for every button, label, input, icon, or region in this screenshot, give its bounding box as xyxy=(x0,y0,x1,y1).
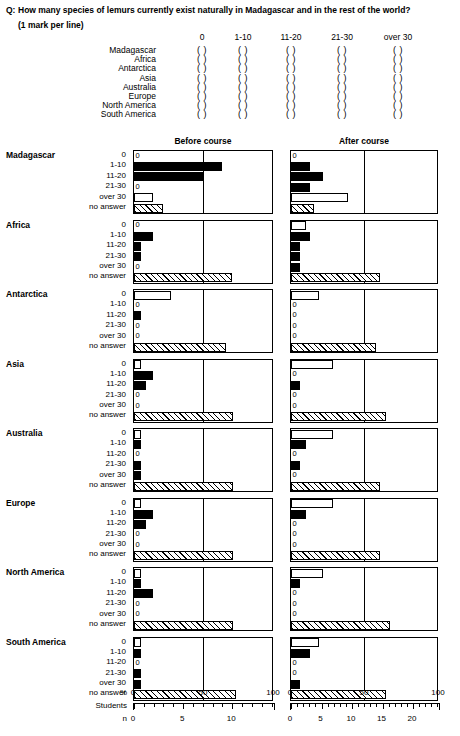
ruler-tick xyxy=(183,703,184,709)
plot-before: 00 xyxy=(133,498,273,562)
answer-checkbox[interactable]: ( ) xyxy=(393,110,403,119)
bar-open xyxy=(134,430,141,439)
bar-row xyxy=(291,172,437,182)
bar-row xyxy=(134,578,272,588)
ruler-tick xyxy=(242,703,243,707)
bar-row xyxy=(291,550,437,560)
zero-value-label: 0 xyxy=(136,390,140,400)
ruler-tick xyxy=(309,703,310,707)
zero-value-label: 0 xyxy=(136,151,140,161)
bar-row xyxy=(291,193,437,203)
category-label: 0 xyxy=(0,220,126,230)
bar-row xyxy=(134,568,272,578)
category-label: 21-30 xyxy=(0,668,126,678)
plot-after: 00 xyxy=(290,428,438,492)
plot-before: 00 xyxy=(133,359,273,423)
ruler-tick xyxy=(395,703,396,707)
bar-hatch xyxy=(134,621,233,630)
bar-row: 0 xyxy=(134,321,272,331)
ruler-tick xyxy=(340,703,341,707)
bar-row xyxy=(134,550,272,560)
zero-value-label: 0 xyxy=(136,658,140,668)
bar-solid xyxy=(134,381,146,390)
bar-solid xyxy=(134,579,141,588)
zero-value-label: 0 xyxy=(293,449,297,459)
category-label: over 30 xyxy=(0,192,126,202)
answer-grid-row-label: Madagascar xyxy=(0,46,156,55)
n-tick-label: 10 xyxy=(347,714,356,723)
bar-solid xyxy=(291,242,300,251)
zero-value-label: 0 xyxy=(293,151,297,161)
bar-row xyxy=(134,311,272,321)
bar-row xyxy=(291,231,437,241)
zero-value-label: 0 xyxy=(293,540,297,550)
bar-row: 0 xyxy=(134,221,272,231)
category-label: 21-30 xyxy=(0,598,126,608)
ruler-tick xyxy=(322,703,323,709)
bar-row xyxy=(291,161,437,171)
bar-solid xyxy=(134,162,222,171)
bar-row: 0 xyxy=(134,391,272,401)
n-axis-row: n 0510 05101520 xyxy=(0,714,460,727)
zero-value-label: 0 xyxy=(293,588,297,598)
plot-after: 000 xyxy=(290,359,438,423)
answer-checkbox[interactable]: ( ) xyxy=(286,110,296,119)
category-label: 11-20 xyxy=(0,240,126,250)
panel-group: North America01-1011-2021-30over 30no an… xyxy=(0,567,460,635)
zero-value-label: 0 xyxy=(136,331,140,341)
n-tick-label: 20 xyxy=(408,714,417,723)
charts-area: Before course After course Madagascar01-… xyxy=(0,136,460,704)
zero-value-label: 0 xyxy=(293,310,297,320)
zero-value-label: 0 xyxy=(136,182,140,192)
category-label: over 30 xyxy=(0,261,126,271)
bar-row xyxy=(291,360,437,370)
bar-row: 0 xyxy=(134,300,272,310)
category-label: 21-30 xyxy=(0,181,126,191)
bar-row xyxy=(291,241,437,251)
bar-open xyxy=(291,638,319,647)
bar-row: 0 xyxy=(291,471,437,481)
bar-open xyxy=(291,360,333,369)
question-text: How many species of lemurs currently exi… xyxy=(18,5,411,16)
ruler-tick xyxy=(232,703,233,709)
plot-before: 00 xyxy=(133,567,273,631)
bar-row xyxy=(134,519,272,529)
bar-solid xyxy=(291,579,300,588)
answer-checkbox[interactable]: ( ) xyxy=(197,110,207,119)
bar-solid xyxy=(291,381,300,390)
n-tick-label: 0 xyxy=(131,714,135,723)
ruler-tick xyxy=(437,703,438,707)
category-label: no answer xyxy=(0,341,126,351)
ruler-tick xyxy=(262,703,263,707)
bar-hatch xyxy=(291,621,390,630)
bar-open xyxy=(291,499,333,508)
zero-value-label: 0 xyxy=(293,401,297,411)
ruler-tick xyxy=(425,703,426,707)
ruler-tick xyxy=(163,703,164,707)
zero-value-label: 0 xyxy=(293,599,297,609)
bar-hatch xyxy=(134,482,233,491)
bar-row xyxy=(291,221,437,231)
category-label: 0 xyxy=(0,150,126,160)
category-label: over 30 xyxy=(0,400,126,410)
bar-row xyxy=(134,252,272,262)
bar-row: 0 xyxy=(291,391,437,401)
answer-checkbox[interactable]: ( ) xyxy=(238,110,248,119)
answer-grid-row: Antarctica( )( )( )( )( ) xyxy=(0,64,460,73)
bar-solid xyxy=(134,172,203,181)
bar-hatch xyxy=(291,273,380,282)
answer-checkbox[interactable]: ( ) xyxy=(337,110,347,119)
bar-solid xyxy=(291,649,310,658)
bar-row xyxy=(291,252,437,262)
panel-group: Asia01-1011-2021-30over 30no answer00000 xyxy=(0,359,460,427)
bar-row xyxy=(291,439,437,449)
category-label: 0 xyxy=(0,289,126,299)
plot-after: 000 xyxy=(290,498,438,562)
plot-before: 00 xyxy=(133,220,273,284)
bar-row: 0 xyxy=(291,151,437,161)
category-label: over 30 xyxy=(0,470,126,480)
bar-row xyxy=(291,509,437,519)
ruler-tick xyxy=(383,703,384,709)
bar-open xyxy=(291,291,319,300)
zero-value-label: 0 xyxy=(293,300,297,310)
